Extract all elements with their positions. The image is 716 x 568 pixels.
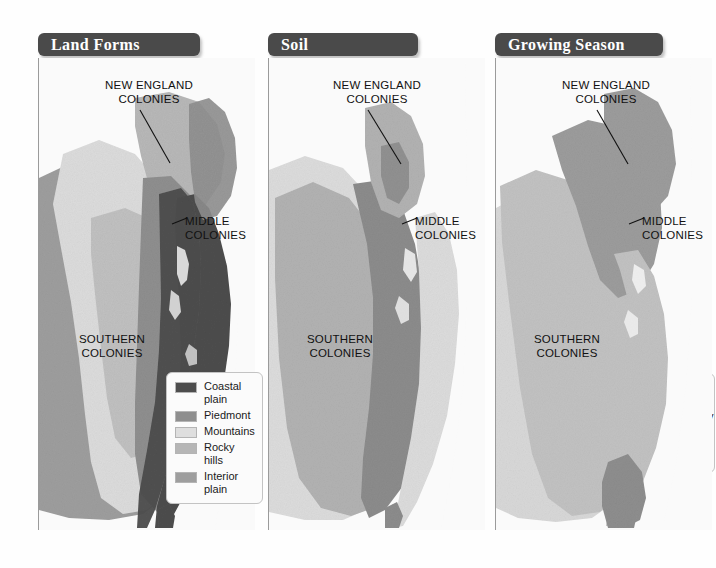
- panel-soil: Soil: [255, 0, 485, 568]
- legend-swatch-interior-plain: [175, 472, 197, 483]
- panel-title-bar-land-forms: Land Forms: [38, 33, 200, 56]
- legend-item: Piedmont: [175, 409, 253, 422]
- legend-item: Interior plain: [175, 470, 253, 496]
- panel-land-forms: Land Forms: [25, 0, 255, 568]
- legend-label-interior-plain: Interior plain: [204, 470, 253, 496]
- panel-title-bar-soil: Soil: [268, 33, 418, 56]
- legend-item: Mountains: [175, 425, 253, 438]
- legend-label-mountains: Mountains: [204, 425, 255, 438]
- map-figure: Land Forms: [0, 0, 716, 568]
- legend-item: Coastal plain: [175, 380, 253, 406]
- legend-swatch-mountains: [175, 427, 197, 438]
- legend-label-rocky-hills: Rocky hills: [204, 441, 253, 467]
- legend-label-piedmont: Piedmont: [204, 409, 250, 422]
- map-soil: [269, 58, 485, 530]
- legend-swatch-piedmont: [175, 411, 197, 422]
- legend-swatch-coastal-plain: [175, 382, 197, 393]
- map-graphic-soil: [269, 58, 485, 530]
- map-growing-season: [496, 58, 712, 530]
- legend-swatch-rocky-hills: [175, 443, 197, 454]
- panel-title-land-forms: Land Forms: [51, 37, 140, 53]
- map-graphic-growing-season: [496, 58, 712, 530]
- panel-title-bar-growing-season: Growing Season: [495, 33, 663, 56]
- panel-growing-season: Growing Season: [482, 0, 712, 568]
- legend-label-coastal-plain: Coastal plain: [204, 380, 253, 406]
- legend-land-forms: Coastal plain Piedmont Mountains Rocky h…: [166, 372, 263, 504]
- panel-title-growing-season: Growing Season: [508, 37, 625, 53]
- legend-item: Rocky hills: [175, 441, 253, 467]
- panel-title-soil: Soil: [281, 37, 308, 53]
